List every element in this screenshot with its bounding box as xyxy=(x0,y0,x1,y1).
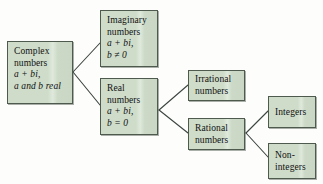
node-nonintegers-line2: integers xyxy=(275,162,310,174)
node-rational-line1: Rational xyxy=(195,123,239,135)
edge-complex-imaginary xyxy=(73,43,100,72)
node-integers-line1: Integers xyxy=(275,107,310,119)
node-complex-line2: numbers xyxy=(14,58,67,70)
node-integers: Integers xyxy=(268,96,316,128)
node-complex-math2: a and b real xyxy=(14,81,67,93)
node-rational-numbers: Rational numbers xyxy=(188,118,245,150)
edge-real-irrational xyxy=(159,85,188,110)
node-irrational-line2: numbers xyxy=(195,86,239,98)
node-non-integers: Non- integers xyxy=(268,143,316,179)
number-classification-diagram: Complex numbers a + bi, a and b real Ima… xyxy=(0,0,323,184)
node-real-math1: a + bi, xyxy=(107,106,152,118)
node-real-math2: b = 0 xyxy=(107,118,152,130)
node-imaginary-line2: numbers xyxy=(107,27,152,39)
node-complex-line1: Complex xyxy=(14,46,67,58)
node-real-numbers: Real numbers a + bi, b = 0 xyxy=(100,78,158,135)
node-rational-line2: numbers xyxy=(195,135,239,147)
node-complex-math1: a + bi, xyxy=(14,69,67,81)
node-irrational-line1: Irrational xyxy=(195,74,239,86)
node-irrational-numbers: Irrational numbers xyxy=(188,70,245,101)
node-imaginary-numbers: Imaginary numbers a + bi, b ≠ 0 xyxy=(100,10,158,67)
node-real-line2: numbers xyxy=(107,95,152,107)
edge-real-rational xyxy=(159,110,188,133)
edge-rational-nonintegers xyxy=(246,133,268,157)
edge-complex-real xyxy=(73,72,100,105)
node-nonintegers-line1: Non- xyxy=(275,150,310,162)
node-imaginary-math2: b ≠ 0 xyxy=(107,50,152,62)
node-imaginary-line1: Imaginary xyxy=(107,15,152,27)
node-imaginary-math1: a + bi, xyxy=(107,38,152,50)
node-real-line1: Real xyxy=(107,83,152,95)
edge-rational-integers xyxy=(246,111,268,133)
node-complex-numbers: Complex numbers a + bi, a and b real xyxy=(7,41,73,104)
